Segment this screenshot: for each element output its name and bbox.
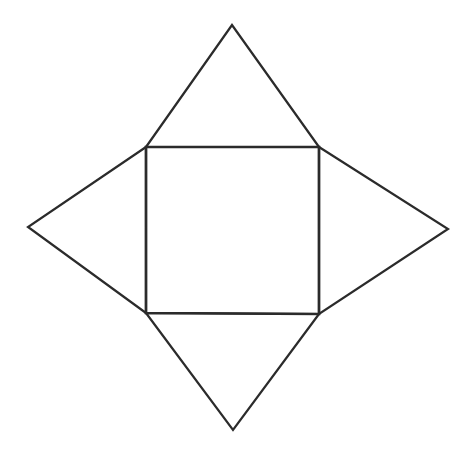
right-triangle-face bbox=[319, 147, 448, 314]
bottom-triangle-face bbox=[146, 313, 319, 430]
top-triangle-face bbox=[146, 25, 319, 147]
left-triangle-face bbox=[28, 147, 146, 313]
base-square-face bbox=[146, 147, 319, 314]
pyramid-net-diagram bbox=[0, 0, 470, 454]
